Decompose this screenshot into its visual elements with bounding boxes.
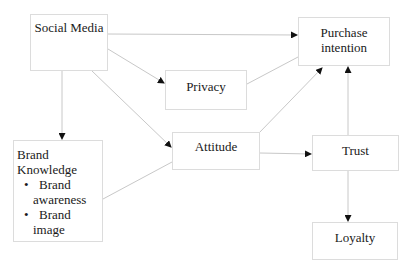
edge-social-to-attitude: [92, 71, 171, 147]
edge-attitude-to-purchase: [259, 68, 322, 133]
brand-knowledge-list: • Brand awareness • Brand image: [17, 177, 102, 237]
edge-brand-knowledge-to-attitude: [103, 162, 172, 199]
edge-social-to-purchase: [108, 34, 297, 35]
node-purchase-intention-label-2: intention: [299, 40, 389, 55]
item-image-line2: image: [33, 222, 102, 237]
node-purchase-intention: Purchase intention: [298, 17, 390, 66]
node-social-media-label: Social Media: [31, 20, 107, 35]
node-loyalty: Loyalty: [312, 222, 398, 260]
node-loyalty-label: Loyalty: [313, 230, 397, 245]
item-image-line1: Brand: [33, 207, 102, 222]
edge-social-to-privacy: [108, 49, 164, 83]
node-trust: Trust: [312, 135, 399, 171]
item-awareness-line2: awareness: [33, 192, 102, 207]
node-brand-knowledge-title-1: Brand: [17, 147, 102, 162]
node-social-media: Social Media: [30, 14, 108, 71]
node-purchase-intention-label-1: Purchase: [299, 25, 389, 40]
node-brand-knowledge-title-2: Knowledge: [17, 162, 102, 177]
brand-knowledge-item-awareness: • Brand awareness: [17, 177, 102, 207]
node-trust-label: Trust: [313, 143, 398, 158]
bullet-icon: •: [24, 207, 29, 222]
item-awareness-line1: Brand: [33, 177, 102, 192]
bullet-icon: •: [24, 177, 29, 192]
node-privacy: Privacy: [165, 70, 247, 110]
node-attitude: Attitude: [172, 132, 260, 170]
brand-knowledge-item-image: • Brand image: [17, 207, 102, 237]
node-brand-knowledge: Brand Knowledge • Brand awareness • Bran…: [13, 140, 103, 242]
edge-privacy-to-purchase: [247, 57, 298, 84]
node-attitude-label: Attitude: [173, 139, 259, 154]
node-privacy-label: Privacy: [166, 79, 246, 94]
edge-attitude-to-trust: [260, 153, 311, 154]
